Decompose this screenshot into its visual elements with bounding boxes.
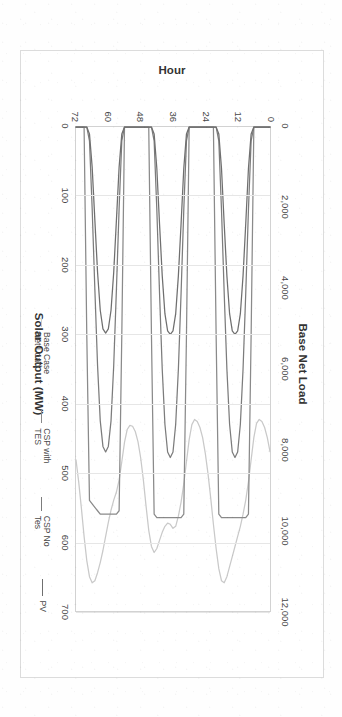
legend-line-swatch [42,497,43,510]
legend-line-swatch [42,579,43,596]
top-axis-tick-label: 2,000 [280,195,291,219]
series-line [76,127,270,458]
top-axis-tick-label: 4,000 [280,276,291,300]
category-axis-tick-label: 12 [233,104,244,122]
bottom-axis-tick-label: 100 [60,187,71,203]
gridline-vertical [76,473,270,474]
plot-area [75,126,271,612]
top-axis-tick-label: 10,000 [280,516,291,545]
category-axis-tick-label: 24 [200,104,211,122]
gridline-vertical [76,334,270,335]
series-line [76,127,270,334]
category-axis-tick-label: 48 [135,104,146,122]
top-axis-tick-label: 6,000 [280,357,291,381]
category-axis-title: Hour [158,64,185,76]
bottom-axis-tick-label: 300 [60,326,71,342]
category-axis-tick-label: 36 [168,104,179,122]
gridline-vertical [76,543,270,544]
chart-legend: Base Case Net LoadCSP with TESCSP No Tes… [31,126,53,612]
legend-item: CSP with TES [33,410,51,471]
legend-label: CSP No Tes [33,516,51,553]
chart-figure: Base Net Load Solar Output (MW) Hour 02,… [29,64,315,664]
rotated-chart-wrapper: Base Net Load Solar Output (MW) Hour 02,… [29,64,315,664]
legend-label: Base Case Net Load [33,332,51,384]
gridline-vertical [76,404,270,405]
series-line [76,419,270,582]
gridline-vertical [76,195,270,196]
legend-label: PV [38,601,47,612]
gridline-vertical [76,265,270,266]
top-axis-title: Base Net Load [297,64,309,664]
legend-line-swatch [42,316,43,327]
bottom-axis-tick-label: 700 [60,604,71,620]
category-axis-tick-label: 0 [266,104,277,122]
legend-label: CSP with TES [33,428,51,471]
bottom-axis-tick-label: 400 [60,396,71,412]
legend-line-swatch [42,410,43,423]
category-axis-tick-label: 72 [70,104,81,122]
legend-item: CSP No Tes [33,497,51,552]
top-axis-tick-label: 12,000 [280,597,291,626]
chart-figure-frame: Base Net Load Solar Output (MW) Hour 02,… [20,50,324,678]
legend-item: Base Case Net Load [33,316,51,384]
series-lines [76,127,270,611]
top-axis-tick-label: 0 [280,123,291,128]
legend-item: PV [38,579,47,612]
category-axis-tick-label: 60 [102,104,113,122]
series-line [76,127,270,518]
bottom-axis-tick-label: 0 [60,123,71,128]
gridline-vertical [76,612,270,613]
bottom-axis-tick-label: 200 [60,257,71,273]
top-axis-tick-label: 8,000 [280,438,291,462]
bottom-axis-tick-label: 600 [60,535,71,551]
bottom-axis-tick-label: 500 [60,465,71,481]
